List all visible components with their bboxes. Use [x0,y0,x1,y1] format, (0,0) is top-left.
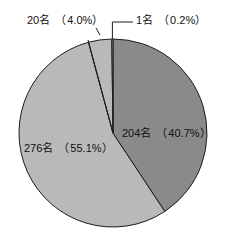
leader-line-20 [96,28,100,35]
pie-label-20: 20名 （4.0%） [27,15,103,26]
pie-chart: 20名 （4.0%） 1名 （0.2%） 204名 （40.7%） 276名 （… [0,0,225,251]
pie-chart-canvas [0,0,225,251]
pie-label-1: 1名 （0.2%） [136,15,206,26]
pie-label-276: 276名 （55.1%） [24,143,113,154]
pie-label-204: 204名 （40.7%） [122,128,211,139]
leader-line-1 [112,22,133,39]
